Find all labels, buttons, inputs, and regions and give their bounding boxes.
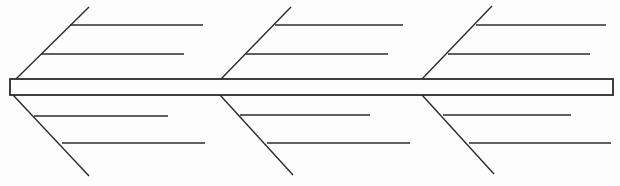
branch-bottom-1 xyxy=(13,95,205,176)
branch-diagonal-line xyxy=(221,7,291,79)
branch-diagonal-line xyxy=(13,95,89,176)
branch-top-2 xyxy=(221,7,403,79)
branch-top-3 xyxy=(422,6,606,79)
spine-bar xyxy=(10,79,613,95)
branch-top-1 xyxy=(16,7,203,79)
fishbone-diagram-canvas xyxy=(0,0,620,186)
branch-diagonal-line xyxy=(422,95,494,174)
branch-bottom-2 xyxy=(220,95,410,175)
branch-diagonal-line xyxy=(422,6,492,79)
branch-bottom-3 xyxy=(422,95,611,174)
branch-diagonal-line xyxy=(220,95,293,175)
branch-diagonal-line xyxy=(16,7,89,79)
fishbone-diagram xyxy=(0,0,620,186)
